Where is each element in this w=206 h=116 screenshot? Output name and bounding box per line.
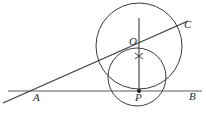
point-label-A: A [33,92,40,103]
point-label-C: C [184,19,191,30]
point-label-O: O [129,36,137,47]
point-label-B: B [189,91,196,102]
geometry-figure: A B C O P [0,0,206,116]
point-label-P: P [135,92,142,103]
geometry-canvas [0,0,206,116]
